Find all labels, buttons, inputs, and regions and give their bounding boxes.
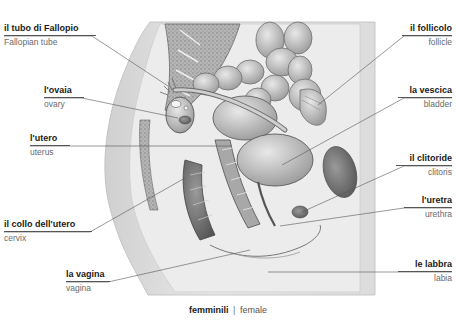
label-it: la vescica	[398, 86, 452, 98]
label-en: uterus	[30, 146, 70, 157]
caption-separator: |	[233, 305, 235, 315]
label-it: l'utero	[30, 134, 70, 146]
label-en: clitoris	[396, 166, 452, 177]
label-en: follicle	[402, 36, 452, 47]
label-bladder: la vescica bladder	[398, 86, 452, 109]
label-en: Fallopian tube	[4, 36, 96, 47]
caption-italian: femminili	[189, 305, 229, 315]
figure-caption: femminili | female	[0, 305, 456, 315]
label-en: bladder	[398, 98, 452, 109]
label-it: l'ovaia	[44, 86, 84, 98]
label-it: il tubo di Fallopio	[4, 24, 96, 36]
label-it: il follicolo	[402, 24, 452, 36]
label-it: l'uretra	[404, 196, 452, 208]
label-follicle: il follicolo follicle	[402, 24, 452, 47]
label-it: il clitoride	[396, 154, 452, 166]
label-en: vagina	[66, 282, 110, 293]
label-uterus: l'utero uterus	[30, 134, 70, 157]
label-cervix: il collo dell'utero cervix	[4, 220, 92, 243]
label-en: cervix	[4, 232, 92, 243]
caption-english: female	[240, 305, 267, 315]
label-it: il collo dell'utero	[4, 220, 92, 232]
label-it: le labbra	[398, 260, 452, 272]
label-en: labia	[398, 272, 452, 283]
label-vagina: la vagina vagina	[66, 270, 110, 293]
label-it: la vagina	[66, 270, 110, 282]
label-clitoris: il clitoride clitoris	[396, 154, 452, 177]
label-ovary: l'ovaia ovary	[44, 86, 84, 109]
label-en: urethra	[404, 208, 452, 219]
label-en: ovary	[44, 98, 84, 109]
label-labia: le labbra labia	[398, 260, 452, 283]
clitoris	[292, 206, 308, 218]
label-fallopian-tube: il tubo di Fallopio Fallopian tube	[4, 24, 96, 47]
label-urethra: l'uretra urethra	[404, 196, 452, 219]
anatomy-figure: il tubo di Fallopio Fallopian tube l'ova…	[0, 0, 456, 321]
bladder	[237, 134, 313, 186]
